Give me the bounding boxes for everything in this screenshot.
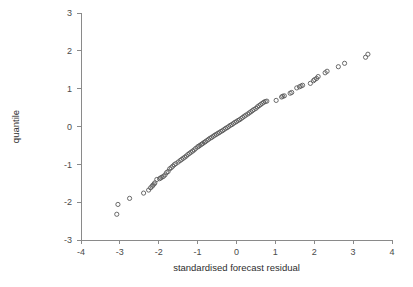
y-axis-tick-label: -2 xyxy=(64,197,72,207)
y-axis-tick-label: -1 xyxy=(64,160,72,170)
x-axis-tick-label: -1 xyxy=(194,247,202,257)
y-axis-tick-label: -3 xyxy=(64,235,72,245)
x-axis-tick-label: 4 xyxy=(389,247,394,257)
x-axis-tick-label: -4 xyxy=(77,247,85,257)
y-axis-tick-label: 1 xyxy=(67,84,72,94)
x-axis-tick-label: 1 xyxy=(273,247,278,257)
y-axis-title: quantile xyxy=(10,110,21,143)
x-axis-tick-label: 2 xyxy=(312,247,317,257)
qq-plot-canvas: -4-3-2-101234 -3-2-10123 standardised fo… xyxy=(0,0,413,287)
x-axis-tick-label: -2 xyxy=(155,247,163,257)
y-axis-tick-label: 2 xyxy=(67,46,72,56)
y-axis-tick-label: 3 xyxy=(67,8,72,18)
x-axis-tick-label: -3 xyxy=(116,247,124,257)
x-axis-tick-label: 0 xyxy=(234,247,239,257)
y-axis-tick-label: 0 xyxy=(67,122,72,132)
qq-plot-figure: -4-3-2-101234 -3-2-10123 standardised fo… xyxy=(0,0,413,287)
x-axis-title: standardised forecast residual xyxy=(173,262,300,273)
x-axis-tick-label: 3 xyxy=(351,247,356,257)
